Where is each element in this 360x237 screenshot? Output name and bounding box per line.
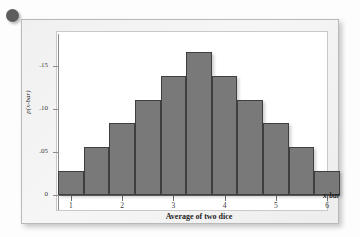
figure-stage: 0.05.10.15 123456 p(x-bar) Average of tw… bbox=[0, 0, 360, 237]
y-tick-label: 0 bbox=[22, 191, 48, 198]
histogram-bar bbox=[58, 171, 84, 195]
y-axis-label: p(x-bar) bbox=[24, 90, 32, 113]
histogram-bar bbox=[212, 76, 238, 195]
histogram-bar bbox=[161, 76, 187, 195]
y-tick-label: .15 bbox=[22, 62, 48, 69]
bullet-dot-icon bbox=[6, 9, 19, 22]
histogram-bar bbox=[109, 123, 135, 195]
histogram-bar bbox=[289, 147, 315, 195]
histogram-bar bbox=[84, 147, 110, 195]
chart-axes: 0.05.10.15 123456 p(x-bar) Average of tw… bbox=[22, 20, 338, 223]
histogram-bar bbox=[186, 52, 212, 195]
x-axis-label: Average of two dice bbox=[58, 212, 340, 221]
histogram-bar bbox=[263, 123, 289, 195]
figure-frame: 0.05.10.15 123456 p(x-bar) Average of tw… bbox=[21, 19, 339, 224]
x-axis-end-label: x-bar bbox=[323, 191, 340, 200]
histogram-bars bbox=[58, 20, 340, 223]
histogram-bar bbox=[135, 100, 161, 195]
histogram-bar bbox=[237, 100, 263, 195]
y-tick-label: .05 bbox=[22, 148, 48, 155]
